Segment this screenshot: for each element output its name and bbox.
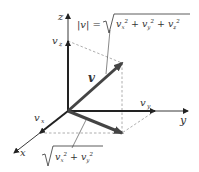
projection-leader-line: [72, 120, 86, 148]
vy-label: v y: [140, 97, 151, 110]
vector-diagram: z y x v z v y v x v |v| = vx2 + vy2 + vz…: [0, 0, 199, 172]
svg-text:x: x: [41, 117, 45, 124]
svg-text:v: v: [140, 97, 146, 108]
projection-radicand: vx2 + vy2: [55, 151, 93, 164]
y-axis-label: y: [179, 114, 187, 127]
svg-text:y: y: [146, 102, 151, 110]
vector-v-label: v: [88, 71, 96, 85]
magnitude-leader-line: [106, 30, 110, 74]
vz-label: v z: [52, 35, 63, 47]
magnitude-formula: |v| = vx2 + vy2 + vz2: [77, 14, 190, 33]
projection-formula: vx2 + vy2: [42, 146, 103, 166]
svg-text:v: v: [52, 35, 58, 46]
projection-vector: [68, 111, 122, 133]
x-axis-label: x: [20, 147, 26, 158]
dash-vz-to-tip: [68, 41, 122, 63]
vx-label: v x: [34, 112, 45, 124]
component-vectors: [40, 41, 155, 133]
main-vector-v: [68, 63, 122, 111]
magnitude-radicand: vx2 + vy2 + vz2: [116, 18, 180, 31]
svg-text:z: z: [58, 40, 63, 47]
svg-text:v: v: [34, 112, 40, 123]
dash-vy-to-proj: [122, 111, 155, 133]
svg-text:|v| =: |v| =: [77, 19, 101, 31]
diagram-canvas: z y x v z v y v x v |v| = vx2 + vy2 + vz…: [0, 0, 199, 172]
z-axis-label: z: [57, 11, 64, 22]
